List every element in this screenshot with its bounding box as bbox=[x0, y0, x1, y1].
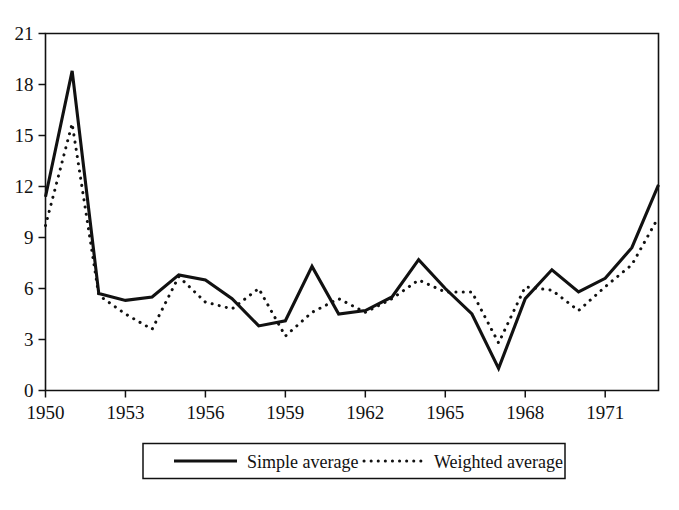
y-tick-label: 3 bbox=[24, 329, 34, 350]
y-tick-label: 21 bbox=[15, 23, 34, 44]
x-tick-label: 1956 bbox=[186, 402, 224, 423]
y-tick-label: 9 bbox=[24, 227, 34, 248]
y-tick-label: 15 bbox=[15, 125, 34, 146]
y-tick-label: 18 bbox=[15, 74, 34, 95]
x-tick-label: 1959 bbox=[266, 402, 304, 423]
chart-background bbox=[0, 0, 679, 510]
legend-label-simple-average: Simple average bbox=[247, 452, 358, 472]
chart-legend: Simple average Weighted average bbox=[143, 444, 565, 479]
x-tick-label: 1953 bbox=[106, 402, 144, 423]
x-tick-label: 1965 bbox=[426, 402, 464, 423]
x-tick-label: 1968 bbox=[506, 402, 544, 423]
y-tick-label: 6 bbox=[24, 278, 34, 299]
x-tick-label: 1950 bbox=[27, 402, 65, 423]
line-chart: 036912151821 195019531956195919621965196… bbox=[0, 0, 679, 510]
x-tick-label: 1971 bbox=[586, 402, 624, 423]
chart-figure: 036912151821 195019531956195919621965196… bbox=[0, 0, 679, 510]
x-tick-label: 1962 bbox=[346, 402, 384, 423]
legend-label-weighted-average: Weighted average bbox=[434, 452, 563, 472]
y-tick-label: 12 bbox=[15, 176, 34, 197]
y-tick-label: 0 bbox=[24, 380, 34, 401]
